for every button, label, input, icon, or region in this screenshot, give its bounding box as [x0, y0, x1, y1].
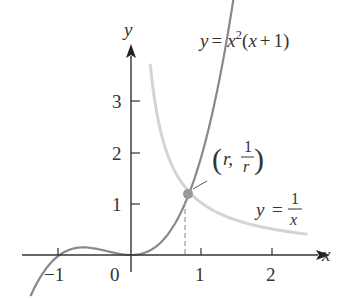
leader-line [193, 181, 207, 189]
svg-text:x: x [289, 211, 297, 228]
left-paren: ( [212, 142, 222, 176]
y-tick-label-1: 1 [112, 194, 122, 215]
x-tick-label-minus1: −1 [44, 264, 64, 285]
y-tick-label-3: 3 [112, 91, 122, 112]
graph-figure: x y −1 1 2 0 1 2 3 ( r, 1 r ) y=x2(x+1) … [0, 0, 340, 298]
svg-text:y=x2(x+1): y=x2(x+1) [198, 27, 289, 52]
origin-label: 0 [110, 264, 120, 285]
intersection-point [183, 189, 193, 199]
y-tick-label-2: 2 [112, 143, 122, 164]
hyperbola-label: y = 1 x [254, 190, 302, 228]
y-axis-label: y [122, 19, 133, 40]
svg-text:y: y [254, 199, 265, 220]
cubic-label: y=x2(x+1) [198, 27, 289, 52]
svg-text:1: 1 [291, 190, 299, 207]
y-axis-arrow-icon [126, 44, 136, 58]
x-tick-label-1: 1 [195, 264, 205, 285]
intersection-num: 1 [244, 138, 252, 155]
x-axis-label: x [321, 244, 331, 265]
svg-text:=: = [272, 199, 283, 220]
intersection-r: r, [223, 148, 233, 169]
x-tick-label-2: 2 [266, 264, 276, 285]
right-paren: ) [254, 142, 264, 176]
intersection-label: ( r, 1 r ) [212, 138, 264, 176]
intersection-den: r [243, 158, 250, 175]
y-axis [126, 44, 140, 272]
